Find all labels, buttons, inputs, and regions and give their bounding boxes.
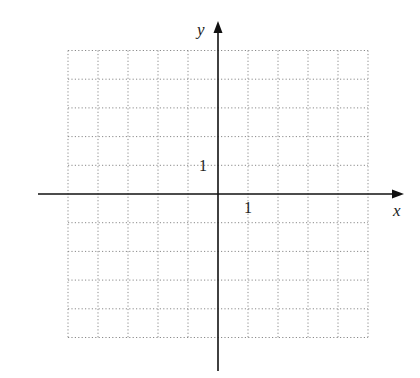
- y-axis-label: y: [195, 20, 205, 39]
- x-axis-arrow-icon: [392, 190, 404, 199]
- y-tick-label-1: 1: [199, 157, 207, 174]
- x-axis-label: x: [392, 201, 401, 220]
- x-tick-label-1: 1: [244, 199, 252, 216]
- coordinate-plane: x y 1 1: [0, 0, 420, 378]
- y-axis-arrow-icon: [214, 21, 223, 33]
